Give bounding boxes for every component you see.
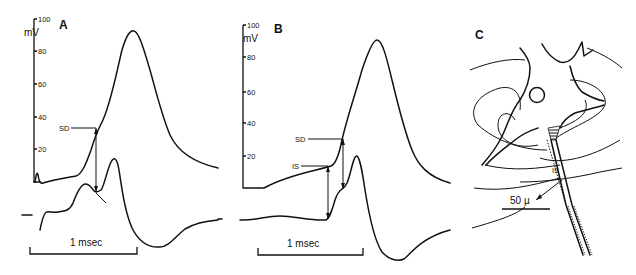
panel-b-tick-100: 100 bbox=[247, 21, 260, 30]
panel-a-tick-60: 60 bbox=[38, 80, 46, 89]
panel-a-tick-20: 20 bbox=[38, 145, 46, 154]
panel-c-scale-label: 50 µ bbox=[510, 195, 530, 206]
panel-b: 100 mV 80 60 40 20 B IS SD 1 msec bbox=[218, 21, 450, 260]
panel-a: 100 mV 80 60 40 20 A SD 1 msec bbox=[22, 15, 218, 254]
panel-a-tick-40: 40 bbox=[38, 113, 46, 122]
panel-a-sd-label: SD bbox=[59, 124, 70, 133]
panel-c-label: C bbox=[475, 28, 484, 42]
panel-b-tick-40: 40 bbox=[247, 119, 255, 128]
panel-b-tick-20: 20 bbox=[247, 152, 255, 161]
panel-b-is-label: IS bbox=[292, 162, 299, 171]
panel-b-is-pointer bbox=[301, 166, 328, 219]
panel-a-scale-label: 1 msec bbox=[70, 237, 102, 248]
panel-a-extrapolation-line bbox=[96, 193, 106, 203]
panel-b-time-scale-bar bbox=[258, 248, 363, 255]
panel-a-action-potential-trace bbox=[34, 31, 218, 183]
arrowhead-icon bbox=[536, 194, 542, 200]
panel-b-label: B bbox=[274, 22, 283, 36]
nucleus bbox=[530, 88, 545, 103]
panel-b-derivative-trace bbox=[218, 156, 450, 260]
current-flow-lines bbox=[470, 48, 622, 228]
panel-b-tick-60: 60 bbox=[247, 88, 255, 97]
panel-b-action-potential-trace bbox=[259, 40, 450, 188]
panel-a-unit: mV bbox=[24, 27, 39, 38]
panel-c-is-label: IS bbox=[552, 166, 559, 175]
axon-initial-segment bbox=[551, 140, 590, 255]
panel-a-label: A bbox=[59, 18, 68, 32]
panel-c: C IS 50 µ bbox=[470, 28, 622, 255]
panel-a-tick-80: 80 bbox=[38, 47, 46, 56]
panel-a-y-axis bbox=[34, 19, 41, 182]
panel-a-tick-100: 100 bbox=[38, 15, 51, 24]
panel-b-sd-pointer bbox=[308, 139, 343, 189]
figure-canvas: 100 mV 80 60 40 20 A SD 1 msec 100 mV 80… bbox=[0, 0, 636, 275]
panel-a-derivative-trace bbox=[22, 159, 218, 247]
panel-b-scale-label: 1 msec bbox=[287, 238, 319, 249]
panel-a-sd-pointer bbox=[71, 128, 96, 192]
panel-a-time-scale-bar bbox=[30, 247, 137, 254]
panel-b-tick-80: 80 bbox=[247, 53, 255, 62]
panel-b-y-axis bbox=[243, 25, 259, 188]
panel-b-sd-label: SD bbox=[295, 135, 306, 144]
panel-b-unit: mV bbox=[243, 33, 258, 44]
